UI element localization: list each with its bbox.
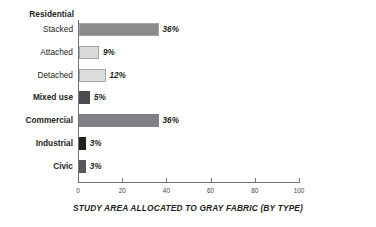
bar-row: Civic3% (78, 160, 300, 183)
bar-industrial (79, 137, 86, 150)
bar-attached (79, 46, 99, 59)
x-tick (166, 178, 167, 182)
value-label-mixed-use: 5% (94, 91, 106, 104)
bar-row: Commercial36% (78, 114, 300, 137)
x-tick-label: 0 (76, 187, 80, 194)
bar-commercial (79, 114, 159, 127)
bar-civic (79, 160, 86, 173)
bar-row: Detached12% (78, 69, 300, 92)
x-tick (122, 178, 123, 182)
bar-row: Stacked36% (78, 23, 300, 46)
category-label-mixed-use: Mixed use (0, 91, 73, 104)
x-tick (299, 178, 300, 182)
value-label-detached: 12% (110, 69, 126, 82)
bar-detached (79, 69, 106, 82)
value-label-stacked: 36% (163, 23, 179, 36)
x-tick-label: 60 (207, 187, 214, 194)
category-label-civic: Civic (0, 160, 73, 173)
category-label-attached: Attached (0, 46, 73, 59)
bar-row: Attached9% (78, 46, 300, 69)
chart-caption: STUDY AREA ALLOCATED TO GRAY FABRIC (BY … (0, 203, 376, 213)
bar-mixed-use (79, 91, 90, 104)
category-label-commercial: Commercial (0, 114, 73, 127)
x-tick (78, 178, 79, 182)
category-label-stacked: Stacked (0, 23, 73, 36)
bar-chart: Residential Stacked36%Attached9%Detached… (0, 0, 376, 227)
x-tick-label: 80 (251, 187, 258, 194)
x-tick-label: 100 (294, 187, 305, 194)
category-label-industrial: Industrial (0, 137, 73, 150)
bar-row: Mixed use5% (78, 91, 300, 114)
value-label-industrial: 3% (90, 137, 102, 150)
bar-stacked (79, 23, 159, 36)
bar-row: Industrial3% (78, 137, 300, 160)
plot-area: Stacked36%Attached9%Detached12%Mixed use… (78, 20, 300, 182)
value-label-attached: 9% (103, 46, 115, 59)
value-label-civic: 3% (90, 160, 102, 173)
x-tick-label: 20 (119, 187, 126, 194)
x-tick (255, 178, 256, 182)
category-label-detached: Detached (0, 69, 73, 82)
x-axis: 020406080100 (78, 182, 300, 202)
category-group-header-residential: Residential (0, 9, 74, 19)
value-label-commercial: 36% (163, 114, 179, 127)
x-tick-label: 40 (163, 187, 170, 194)
x-tick (211, 178, 212, 182)
